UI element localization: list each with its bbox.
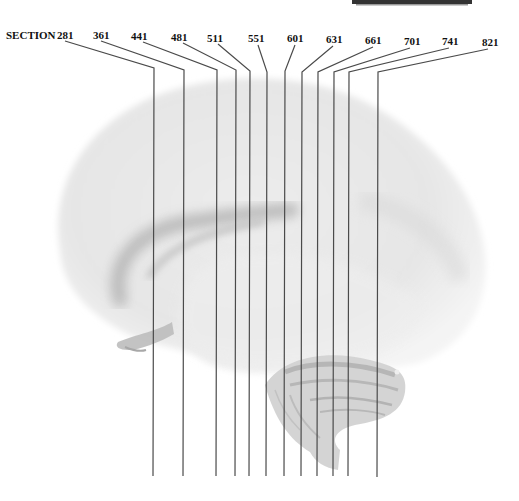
- section-label-661: 661: [365, 35, 382, 46]
- section-label-361: 361: [93, 30, 110, 41]
- section-label-551: 551: [248, 33, 265, 44]
- section-label-701: 701: [404, 36, 421, 47]
- section-label-601: 601: [287, 33, 304, 44]
- section-label-511: 511: [207, 33, 223, 44]
- section-label-741: 741: [442, 36, 459, 47]
- cerebellum: [265, 355, 405, 470]
- section-label-481: 481: [171, 32, 188, 43]
- section-prefix-label: SECTION: [6, 30, 56, 41]
- section-label-281: 281: [57, 30, 74, 41]
- brain-section-diagram: SECTION PLANES: [0, 0, 519, 501]
- cerebral-hemisphere: [58, 78, 486, 373]
- section-label-821: 821: [482, 37, 499, 48]
- section-label-441: 441: [131, 31, 148, 42]
- brain-illustration: [0, 0, 519, 501]
- cut-off-title: [352, 0, 472, 6]
- section-label-631: 631: [326, 34, 343, 45]
